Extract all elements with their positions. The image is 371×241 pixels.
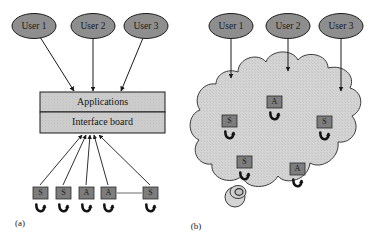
device-label: S [148,188,152,197]
panel-b-caption: (b) [191,221,202,231]
device-label: A [84,188,90,197]
panel-b-user-2[interactable]: User 2 [266,14,310,39]
applications-box[interactable]: Applications [40,92,165,112]
user-label: User 1 [218,21,243,31]
interface-board-box[interactable]: Interface board [40,112,165,133]
panel-b-user-1[interactable]: User 1 [209,14,253,39]
figure-container: User 1 User 2 User 3 Applications Interf… [0,0,371,241]
interface-board-box-label: Interface board [72,116,133,127]
device-label: A [106,188,112,197]
device-label: A [272,97,278,106]
device-label: S [227,116,231,125]
device-label: A [295,164,301,173]
panel-b-user-3[interactable]: User 3 [319,14,363,39]
panel-a-user-1[interactable]: User 1 [12,14,56,39]
user-label: User 1 [21,21,46,31]
device-label: S [61,188,65,197]
device-label: S [38,188,42,197]
panel-a-user-3[interactable]: User 3 [124,14,168,39]
panel-a-caption: (a) [15,218,25,228]
network-architecture-diagram: User 1 User 2 User 3 Applications Interf… [0,0,371,241]
user-label: User 3 [133,21,158,31]
applications-box-label: Applications [77,96,128,107]
user-label: User 2 [80,21,105,31]
device-label: S [322,117,326,126]
user-label: User 2 [275,21,300,31]
gateway-inner-circle [235,189,243,196]
panel-a-user-2[interactable]: User 2 [71,14,115,39]
user-label: User 3 [328,21,353,31]
device-label: S [242,157,246,166]
